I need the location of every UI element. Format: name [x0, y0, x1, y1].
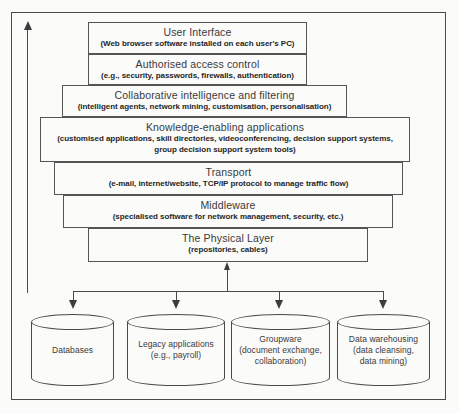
cylinder-top-ellipse	[127, 314, 225, 330]
vertical-arrow-shaft	[27, 28, 28, 293]
layer-middleware: Middleware (specialised software for net…	[63, 195, 393, 228]
diagram-canvas: User Interface (Web browser software ins…	[0, 0, 459, 413]
repository-label-line1: Groupware	[259, 334, 302, 344]
layer-subtitle: (repositories, cables)	[89, 245, 367, 256]
layer-title: Knowledge-enabling applications	[41, 121, 409, 134]
repository-label-line1: Data warehousing	[349, 334, 418, 344]
layer-subtitle: (intelligent agents, network mining, cus…	[63, 102, 346, 113]
cylinder-top-ellipse	[31, 314, 114, 330]
layer-knowledge-enabling-applications: Knowledge-enabling applications (customi…	[40, 117, 410, 162]
repository-legacy-applications: Legacy applications (e.g., payroll)	[127, 314, 225, 386]
repository-label: Databases	[31, 345, 114, 356]
repository-label-line2: (e.g., payroll)	[151, 350, 201, 360]
arrow-down-icon-data-warehousing	[379, 300, 387, 309]
repository-label: Data warehousing (data cleansing, data m…	[337, 334, 430, 367]
repository-label: Groupware (document exchange, collaborat…	[231, 334, 330, 367]
repository-label-line1: Legacy applications	[138, 339, 214, 349]
arrow-down-icon-databases	[69, 300, 77, 309]
arrow-down-icon-legacy-applications	[172, 300, 180, 309]
cylinder-top-ellipse	[231, 314, 330, 330]
repository-data-warehousing: Data warehousing (data cleansing, data m…	[337, 314, 430, 386]
repository-label: Legacy applications (e.g., payroll)	[127, 339, 225, 361]
layer-subtitle-line2: group decision support system tools)	[41, 145, 409, 156]
layer-subtitle: (Web browser software installed on each …	[89, 39, 306, 50]
layer-authorised-access-control: Authorised access control (e.g., securit…	[88, 54, 307, 85]
repository-label-line3: collaboration)	[255, 356, 307, 366]
layer-title: Middleware	[64, 199, 392, 212]
bus-arrow-up-icon	[224, 262, 230, 270]
cylinder-top-ellipse	[337, 314, 430, 330]
layer-title: Authorised access control	[89, 58, 306, 71]
arrow-down-icon-groupware	[275, 300, 283, 309]
layer-subtitle: (customised applications, skill director…	[41, 134, 409, 145]
distribution-bus	[73, 291, 383, 292]
layer-title: Transport	[55, 166, 402, 179]
layer-collaborative-intelligence-and-filtering: Collaborative intelligence and filtering…	[62, 85, 347, 117]
repository-label-line1: Databases	[52, 345, 93, 355]
vertical-arrow-up-icon	[24, 21, 32, 30]
layer-subtitle: (specialised software for network manage…	[64, 212, 392, 223]
repository-databases: Databases	[31, 314, 114, 386]
layer-subtitle: (e.g., security, passwords, firewalls, a…	[89, 71, 306, 82]
repository-label-line3: data mining)	[360, 356, 407, 366]
repository-label-line2: (data cleansing,	[353, 345, 414, 355]
layer-title: The Physical Layer	[89, 232, 367, 245]
bus-riser-vertical	[227, 270, 228, 292]
layer-user-interface: User Interface (Web browser software ins…	[88, 22, 307, 54]
layer-title: User Interface	[89, 26, 306, 39]
layer-title: Collaborative intelligence and filtering	[63, 89, 346, 102]
repository-label-line2: (document exchange,	[239, 345, 322, 355]
layer-subtitle: (e-mail, internet/website, TCP/IP protoc…	[55, 179, 402, 190]
layer-transport: Transport (e-mail, internet/website, TCP…	[54, 162, 403, 195]
repository-groupware: Groupware (document exchange, collaborat…	[231, 314, 330, 386]
layer-the-physical-layer: The Physical Layer (repositories, cables…	[88, 228, 368, 262]
